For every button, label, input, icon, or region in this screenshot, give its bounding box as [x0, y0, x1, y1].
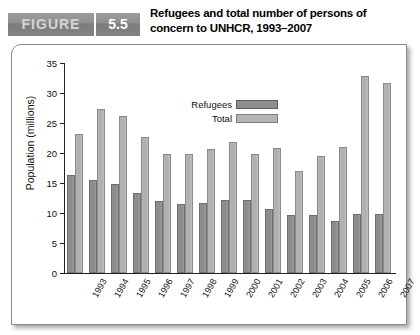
y-tick-label: 25 — [33, 118, 57, 129]
x-tick-label: 1993 — [90, 277, 109, 299]
y-tick-label: 30 — [33, 88, 57, 99]
bar-refugees-2007 — [375, 214, 383, 273]
chart-frame: Population (millions) 05101520253035 199… — [11, 44, 407, 325]
bar-refugees-1998 — [177, 204, 185, 273]
x-tick-label: 1996 — [156, 277, 175, 299]
bar-refugees-2000 — [221, 200, 229, 273]
figure-badge-number: 5.5 — [96, 13, 140, 36]
bar-total-2007 — [383, 83, 391, 273]
x-tick-label: 2006 — [376, 277, 395, 299]
bar-total-1996 — [141, 137, 149, 273]
bar-total-1995 — [119, 116, 127, 273]
y-tick-label: 0 — [33, 268, 57, 279]
bar-refugees-1995 — [111, 184, 119, 273]
bar-refugees-2006 — [353, 214, 361, 273]
bar-total-1994 — [97, 109, 105, 273]
bar-refugees-2003 — [287, 215, 295, 273]
bar-refugees-1994 — [89, 180, 97, 273]
bar-total-2001 — [251, 154, 259, 273]
y-tick-label: 20 — [33, 148, 57, 159]
bar-total-1997 — [163, 154, 171, 273]
y-tick-label: 10 — [33, 208, 57, 219]
y-tick-label: 15 — [33, 178, 57, 189]
bar-refugees-1996 — [133, 193, 141, 273]
bar-refugees-1999 — [199, 203, 207, 273]
x-tick-label: 2007 — [398, 277, 417, 299]
figure-badge-word: FIGURE — [8, 13, 94, 36]
x-tick-label: 2005 — [354, 277, 373, 299]
legend-label-total: Total — [212, 113, 232, 124]
bar-refugees-2004 — [309, 215, 317, 273]
bar-total-1993 — [75, 134, 83, 273]
legend-label-refugees: Refugees — [191, 99, 232, 110]
legend-item-total: Total — [160, 112, 278, 124]
x-tick-label: 2002 — [288, 277, 307, 299]
bar-total-2003 — [295, 171, 303, 273]
x-tick-label: 1995 — [134, 277, 153, 299]
x-axis-line — [64, 273, 396, 274]
y-tick-label: 35 — [33, 58, 57, 69]
figure-title: Refugees and total number of persons of … — [150, 6, 412, 36]
bar-total-2006 — [361, 76, 369, 273]
bar-refugees-2002 — [265, 209, 273, 273]
bar-total-2004 — [317, 156, 325, 273]
y-axis-line — [64, 63, 65, 274]
legend-swatch-total — [236, 114, 278, 123]
chart-plot-area: Population (millions) 05101520253035 199… — [12, 45, 408, 326]
bar-refugees-1993 — [67, 175, 75, 273]
bar-refugees-1997 — [155, 201, 163, 273]
x-tick-label: 1998 — [200, 277, 219, 299]
figure-badge: FIGURE 5.5 — [8, 13, 140, 36]
bar-total-1999 — [207, 149, 215, 273]
bar-refugees-2001 — [243, 200, 251, 273]
figure-header: FIGURE 5.5 Refugees and total number of … — [0, 6, 420, 40]
chart-legend: Refugees Total — [160, 98, 278, 126]
bar-total-1998 — [185, 154, 193, 273]
bar-total-2005 — [339, 147, 347, 273]
legend-item-refugees: Refugees — [160, 98, 278, 110]
legend-swatch-refugees — [236, 100, 278, 109]
bar-refugees-2005 — [331, 221, 339, 273]
y-tick-label: 5 — [33, 238, 57, 249]
bar-total-2002 — [273, 148, 281, 273]
x-tick-label: 2001 — [266, 277, 285, 299]
x-tick-label: 2004 — [332, 277, 351, 299]
x-tick-label: 2000 — [244, 277, 263, 299]
bar-total-2000 — [229, 142, 237, 273]
x-tick-label: 2003 — [310, 277, 329, 299]
x-tick-label: 1997 — [178, 277, 197, 299]
x-tick-label: 1994 — [112, 277, 131, 299]
x-tick-label: 1999 — [222, 277, 241, 299]
